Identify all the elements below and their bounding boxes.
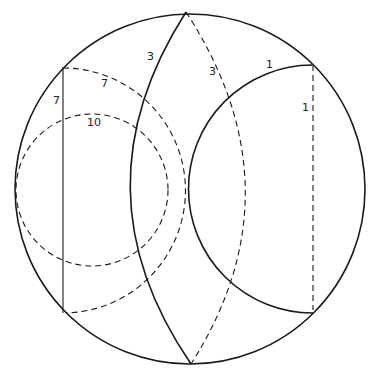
arc-seven-label: 7	[101, 77, 108, 90]
lens-right-label: 3	[209, 65, 216, 78]
arc-seven-dashed	[63, 68, 185, 313]
right-arc-label: 1	[266, 58, 273, 71]
right-vertical-label: 1	[302, 101, 309, 114]
lens-left-label: 3	[147, 50, 154, 63]
right-solid-arc	[188, 65, 313, 313]
left-vertical-label: 7	[53, 94, 60, 107]
circle-ten-dashed	[16, 114, 168, 266]
diagram-svg: 3 3 1 1 7 7 10	[0, 0, 371, 379]
lens-left-solid-arc	[130, 12, 191, 364]
circle-ten-label: 10	[87, 116, 101, 129]
diagram-canvas: 3 3 1 1 7 7 10	[0, 0, 371, 379]
